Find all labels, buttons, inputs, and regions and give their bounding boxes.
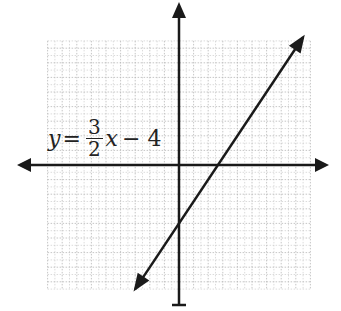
equation-equals: = bbox=[62, 128, 80, 150]
x-axis bbox=[17, 158, 329, 172]
fraction-numerator: 3 bbox=[86, 117, 103, 139]
x-axis-left-arrow-icon bbox=[17, 158, 31, 172]
y-axis-up-arrow-icon bbox=[172, 2, 186, 18]
equation-fraction: 3 2 bbox=[86, 117, 103, 160]
line-arrow-end-icon bbox=[289, 35, 305, 54]
x-axis-right-arrow-icon bbox=[315, 158, 329, 172]
equation-lhs: y bbox=[48, 128, 60, 150]
y-axis bbox=[172, 2, 186, 305]
equation-label: y = 3 2 x − 4 bbox=[48, 117, 161, 160]
graphed-line bbox=[134, 35, 305, 292]
equation-rest: − 4 bbox=[122, 128, 161, 150]
fraction-denominator: 2 bbox=[88, 139, 101, 160]
equation-variable: x bbox=[106, 128, 118, 150]
